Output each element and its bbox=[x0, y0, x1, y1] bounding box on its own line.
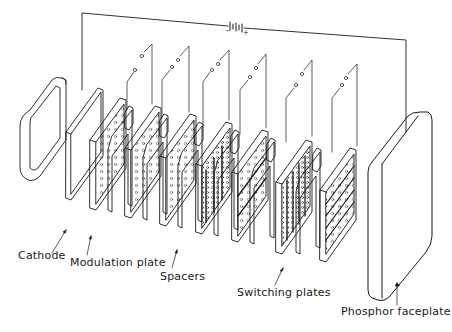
switching-plate-3 bbox=[276, 140, 312, 254]
battery-plus-sign: + bbox=[243, 29, 249, 37]
exploded-view-drawing bbox=[0, 0, 452, 332]
phosphor-faceplate bbox=[368, 112, 432, 301]
switching-plate-4 bbox=[320, 148, 356, 262]
cathode-housing bbox=[20, 77, 66, 180]
label-cathode: Cathode bbox=[18, 249, 66, 262]
battery-minus-sign: − bbox=[225, 27, 231, 35]
battery-icon bbox=[230, 22, 242, 32]
label-switching-plates: Switching plates bbox=[237, 286, 331, 299]
diagram-canvas: − + Cathode Modulation plate Spacers Swi… bbox=[0, 0, 452, 332]
label-spacers: Spacers bbox=[160, 270, 205, 283]
connection-leads bbox=[127, 44, 357, 152]
label-phosphor-faceplate: Phosphor faceplate bbox=[341, 305, 451, 318]
label-modulation-plate: Modulation plate bbox=[70, 256, 166, 269]
